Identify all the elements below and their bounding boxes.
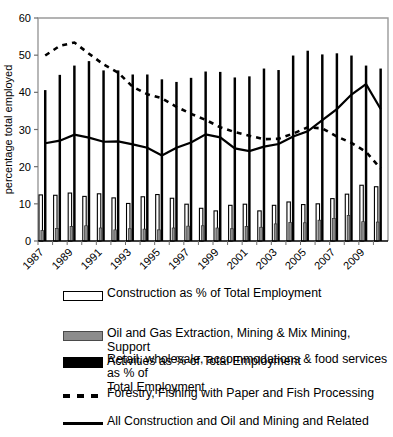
bar-retail: [44, 90, 46, 241]
y-tick-label: 30: [19, 124, 31, 136]
bar-retail: [204, 72, 206, 241]
x-tick-label: 1989: [49, 246, 75, 272]
legend-swatch-oil-gas-icon: [63, 331, 103, 341]
y-tick-label: 10: [19, 198, 31, 210]
bar-oil-gas: [41, 231, 44, 241]
legend-swatch-construction-icon: [63, 291, 103, 301]
x-tick-label: 2003: [253, 246, 279, 272]
bar-retail: [117, 70, 119, 241]
bar-series-group: [39, 51, 382, 241]
bar-oil-gas: [274, 224, 277, 241]
bar-oil-gas: [70, 227, 73, 241]
legend-item: Construction as % of Total Employment: [63, 286, 388, 301]
bar-retail: [131, 74, 133, 241]
plot-border: [38, 18, 388, 241]
x-tick-label: 2005: [282, 246, 308, 272]
bar-oil-gas: [303, 223, 306, 241]
y-tick-label: 0: [25, 235, 31, 247]
x-tick-label: 1987: [20, 246, 46, 272]
line-series-group: [45, 43, 380, 169]
bar-retail: [73, 66, 75, 241]
bar-oil-gas: [245, 227, 248, 241]
y-axis-title-text: percentage total employed: [2, 65, 14, 195]
x-tick-label: 2007: [312, 246, 338, 272]
y-tick-label: 50: [19, 49, 31, 61]
bar-oil-gas: [187, 226, 190, 241]
bar-oil-gas: [114, 230, 117, 241]
legend-item-label: All Construction and Oil and Mining and …: [107, 414, 369, 428]
legend-item: All Construction and Oil and Mining and …: [63, 414, 388, 428]
chart-plot-area: 0102030405060 19871989199119931995199719…: [0, 0, 393, 290]
bar-retail: [102, 70, 104, 241]
bar-oil-gas: [143, 229, 146, 241]
x-axis: 1987198919911993199519971999200120032005…: [20, 241, 388, 272]
line-forestry-fishing: [45, 43, 380, 169]
bar-oil-gas: [230, 229, 233, 241]
bar-retail: [88, 61, 90, 241]
x-tick-label: 1991: [78, 246, 104, 272]
x-tick-label: 2009: [341, 246, 367, 272]
bar-retail: [190, 78, 192, 241]
y-axis: 0102030405060: [19, 12, 38, 247]
legend-swatch-retail-icon: [63, 357, 103, 368]
y-axis-title: percentage total employed: [2, 65, 14, 195]
line-all-construction-oil-mining: [45, 84, 380, 155]
bar-retail: [146, 74, 148, 241]
x-tick-label: 1993: [107, 246, 133, 272]
bar-oil-gas: [376, 222, 379, 241]
bar-retail: [248, 76, 250, 241]
bar-oil-gas: [216, 228, 219, 241]
bar-retail: [306, 51, 308, 241]
y-tick-label: 60: [19, 12, 31, 24]
bar-oil-gas: [289, 222, 292, 241]
bar-oil-gas: [362, 222, 365, 241]
bar-oil-gas: [333, 218, 336, 241]
bar-retail: [292, 56, 294, 241]
x-tick-label: 1995: [137, 246, 163, 272]
bar-retail: [59, 75, 61, 241]
bar-retail: [277, 70, 279, 241]
y-tick-label: 40: [19, 86, 31, 98]
legend-item-label: Forestry, Fishing with Paper and Fish Pr…: [107, 386, 374, 400]
x-tick-label: 1997: [166, 246, 192, 272]
bar-oil-gas: [158, 230, 161, 241]
bar-oil-gas: [55, 228, 58, 241]
legend-item-label: Construction as % of Total Employment: [107, 286, 321, 300]
bar-oil-gas: [99, 228, 102, 241]
bar-oil-gas: [318, 220, 321, 241]
bar-oil-gas: [128, 229, 131, 241]
bar-retail: [161, 79, 163, 241]
legend-swatch-forestry-dashed-icon: [63, 394, 103, 398]
bar-oil-gas: [172, 228, 175, 241]
bar-retail: [379, 69, 381, 241]
bar-oil-gas: [260, 227, 263, 241]
chart-figure: 0102030405060 19871989199119931995199719…: [0, 0, 393, 437]
y-tick-label: 20: [19, 161, 31, 173]
bar-retail: [263, 69, 265, 241]
chart-legend: Construction as % of Total EmploymentOil…: [0, 286, 393, 437]
x-tick-label: 2001: [224, 246, 250, 272]
bar-retail: [219, 72, 221, 241]
x-tick-label: 1999: [195, 246, 221, 272]
bar-oil-gas: [85, 226, 88, 241]
legend-item: Forestry, Fishing with Paper and Fish Pr…: [63, 386, 388, 400]
bar-oil-gas: [201, 226, 204, 241]
bar-retail: [234, 77, 236, 241]
bar-oil-gas: [347, 215, 350, 241]
bar-retail: [336, 53, 338, 241]
bar-retail: [321, 54, 323, 241]
bar-retail: [350, 56, 352, 241]
legend-swatch-all-construction-solid-icon: [63, 422, 103, 425]
plot-frame: [38, 18, 388, 241]
